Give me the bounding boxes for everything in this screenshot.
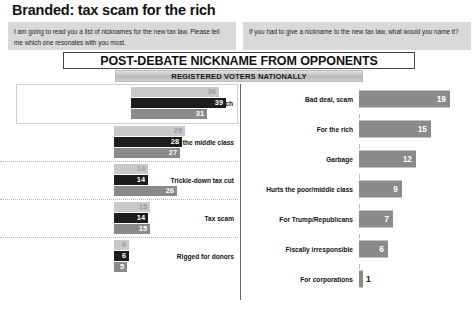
bar-value: 39: [215, 99, 226, 106]
bar-label: Bad deal, scam: [241, 96, 357, 103]
axis-tick: [359, 114, 360, 119]
bar-value: 12: [403, 155, 416, 163]
bar-value: 5: [120, 263, 127, 270]
chart-sub-header: REGISTERED VOTERS NATIONALLY: [115, 70, 363, 82]
bar-group-bars: 29 28 27: [114, 126, 234, 160]
bar-group-bars: 15 14 15: [114, 202, 234, 236]
bar-row: 6: [114, 251, 234, 261]
bar-row: 15: [114, 224, 234, 234]
bar-row: 14: [114, 213, 234, 223]
bar-label: Hurts the poor/middle class: [241, 186, 357, 193]
bar-garbage: 12: [359, 151, 416, 168]
bar-group: Time bomb for the middle class 29 28 27: [0, 124, 238, 162]
bar-value: 36: [208, 88, 219, 95]
bar-group-bars: 6 6 5: [114, 240, 234, 274]
bar-democrats: 39: [131, 98, 226, 108]
bar-tax-cut-opponents: 14: [114, 164, 148, 174]
bar-row: For corporations 1: [241, 264, 476, 294]
bar-row: 27: [114, 148, 234, 158]
bar-group: Rigged for donors 6 6 5: [0, 238, 238, 276]
bar-value: 29: [174, 127, 185, 134]
bar-label: For corporations: [241, 276, 357, 283]
bar-value: 6: [122, 241, 129, 248]
page-title: Branded: tax scam for the rich: [12, 2, 216, 18]
bar-for-trump-republicans: 7: [359, 211, 393, 228]
bar-fiscally-irresponsible: 6: [359, 241, 388, 258]
axis-tick: [359, 234, 360, 239]
axis-tick: [359, 174, 360, 179]
bar-row: 15: [114, 202, 234, 212]
bar-democrats: 6: [114, 251, 129, 261]
bar-value: 14: [137, 214, 148, 221]
bar-row: 36: [131, 87, 251, 97]
chart-panel-right: Bad deal, scam 19 For the rich 15 Garbag…: [240, 84, 476, 300]
bar-group-bars: 36 39 31: [131, 87, 251, 121]
bar-tax-cut-opponents: 36: [131, 87, 219, 97]
bar-value: 14: [137, 165, 148, 172]
bar-tax-cut-opponents: 6: [114, 240, 129, 250]
bar-row: 14: [114, 175, 234, 185]
axis-tick: [359, 144, 360, 149]
bar-row: 28: [114, 137, 234, 147]
bar-row: 6: [114, 240, 234, 250]
bar-row: For the rich 15: [241, 114, 476, 144]
bar-value: 7: [384, 215, 393, 223]
bar-group: Rigged for the rich 36 39 31: [16, 84, 238, 124]
bar-value: 1: [363, 275, 371, 283]
chart-main-header: POST-DEBATE NICKNAME FROM OPPONENTS: [63, 52, 415, 69]
bar-row: For Trump/Republicans 7: [241, 204, 476, 234]
bar-bad-deal-scam: 19: [359, 91, 450, 108]
bar-tax-cut-opponents: 29: [114, 126, 185, 136]
bar-group: Tax scam 15 14 15: [0, 200, 238, 238]
bar-tax-cut-opponents: 15: [114, 202, 150, 212]
bar-democrats: 14: [114, 175, 148, 185]
question-box-right: If you had to give a nickname to the new…: [243, 22, 471, 50]
bar-label: For Trump/Republicans: [241, 216, 357, 223]
bar-value: 9: [393, 185, 402, 193]
axis-tick: [359, 264, 360, 269]
bar-row: 39: [131, 98, 251, 108]
bar-democrats: 28: [114, 137, 182, 147]
bar-label: Fiscally irresponsible: [241, 246, 357, 253]
bar-for-corporations: 1: [359, 271, 363, 288]
bar-value: 14: [137, 176, 148, 183]
bar-value: 27: [169, 149, 180, 156]
bar-independents-gop: 27: [114, 148, 180, 158]
bar-independents-gop: 31: [131, 109, 207, 119]
bar-row: 14: [114, 164, 234, 174]
bar-value: 19: [437, 95, 450, 103]
bar-value: 31: [196, 110, 207, 117]
bar-row: 31: [131, 109, 251, 119]
question-box-left: I am going to read you a list of nicknam…: [8, 22, 236, 50]
bar-row: Garbage 12: [241, 144, 476, 174]
bar-value: 15: [418, 125, 431, 133]
bar-row: 26: [114, 186, 234, 196]
bar-value: 15: [139, 203, 150, 210]
bar-row: 29: [114, 126, 234, 136]
bar-group-bars: 14 14 26: [114, 164, 234, 198]
bar-value: 15: [139, 225, 150, 232]
bar-independents-gop: 26: [114, 186, 177, 196]
axis-tick: [359, 204, 360, 209]
bar-independents-gop: 15: [114, 224, 150, 234]
bar-row: Bad deal, scam 19: [241, 84, 476, 114]
bar-democrats: 14: [114, 213, 148, 223]
chart-panel-left: Rigged for the rich 36 39 31 Time bomb f…: [0, 84, 238, 300]
bar-group: Trickle-down tax cut 14 14 26: [0, 162, 238, 200]
bar-value: 6: [122, 252, 129, 259]
bar-row: Fiscally irresponsible 6: [241, 234, 476, 264]
bar-value: 6: [379, 245, 388, 253]
bar-independents-gop: 5: [114, 262, 127, 272]
bar-label: For the rich: [241, 126, 357, 133]
bar-label: Garbage: [241, 156, 357, 163]
bar-value: 28: [171, 138, 182, 145]
bar-row: Hurts the poor/middle class 9: [241, 174, 476, 204]
bar-hurts-poor-middle-class: 9: [359, 181, 402, 198]
bar-for-the-rich: 15: [359, 121, 431, 138]
bar-row: 5: [114, 262, 234, 272]
bar-value: 26: [166, 187, 177, 194]
